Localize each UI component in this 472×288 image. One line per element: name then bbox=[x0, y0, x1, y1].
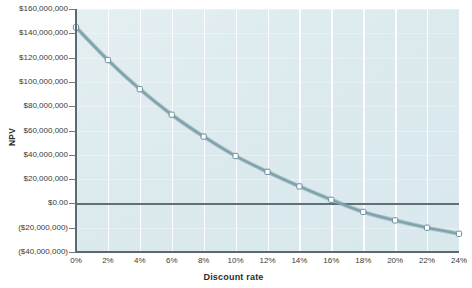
x-axis-tick-label: 12% bbox=[253, 256, 283, 265]
y-axis-tick-mark bbox=[69, 131, 76, 132]
y-axis-tick-mark bbox=[69, 155, 76, 156]
y-axis-tick-label: $140,000,000 bbox=[0, 28, 68, 38]
y-axis-tick-mark bbox=[69, 82, 76, 83]
y-axis-tick-label: $20,000,000 bbox=[0, 174, 68, 184]
data-point-marker bbox=[105, 57, 110, 62]
y-axis-tick-label: $160,000,000 bbox=[0, 4, 68, 14]
x-axis-tick-label: 22% bbox=[412, 256, 442, 265]
plot-area bbox=[76, 9, 459, 252]
x-axis-tick-label: 16% bbox=[316, 256, 346, 265]
x-axis-line bbox=[75, 251, 459, 253]
x-axis-tick-label: 8% bbox=[189, 256, 219, 265]
x-axis-tick-label: 2% bbox=[93, 256, 123, 265]
data-point-marker bbox=[329, 197, 334, 202]
y-axis-tick-label: $100,000,000 bbox=[0, 77, 68, 87]
data-point-marker bbox=[361, 209, 366, 214]
x-axis-tick-label: 18% bbox=[348, 256, 378, 265]
y-axis-tick-mark bbox=[69, 179, 76, 180]
data-point-marker bbox=[169, 112, 174, 117]
x-axis-tick-label: 20% bbox=[380, 256, 410, 265]
y-axis-tick-mark bbox=[69, 252, 76, 253]
y-axis-tick-label: $120,000,000 bbox=[0, 53, 68, 63]
data-point-marker bbox=[137, 87, 142, 92]
series-line bbox=[76, 27, 459, 234]
y-axis-tick-mark bbox=[69, 9, 76, 10]
y-axis-tick-mark bbox=[69, 58, 76, 59]
npv-series-line bbox=[76, 9, 459, 252]
y-axis-title: NPV bbox=[7, 117, 17, 157]
x-axis-tick-label: 4% bbox=[125, 256, 155, 265]
data-point-marker bbox=[233, 153, 238, 158]
y-axis-tick-mark bbox=[69, 33, 76, 34]
data-point-marker bbox=[265, 169, 270, 174]
data-point-marker bbox=[201, 134, 206, 139]
series-line-shadow bbox=[76, 27, 459, 234]
data-point-marker bbox=[297, 184, 302, 189]
y-axis-tick-mark bbox=[69, 106, 76, 107]
x-axis-tick-label: 6% bbox=[157, 256, 187, 265]
y-axis-tick-label: ($40,000,000) bbox=[0, 247, 68, 257]
x-axis-title: Discount rate bbox=[0, 272, 467, 282]
x-axis-tick-label: 10% bbox=[221, 256, 251, 265]
y-axis-tick-label: ($20,000,000) bbox=[0, 223, 68, 233]
data-point-marker bbox=[393, 218, 398, 223]
y-axis-tick-mark bbox=[69, 203, 76, 204]
y-axis-tick-label: $80,000,000 bbox=[0, 101, 68, 111]
vertical-gridline bbox=[459, 9, 460, 252]
x-axis-tick-label: 0% bbox=[61, 256, 91, 265]
x-axis-tick-label: 24% bbox=[444, 256, 472, 265]
y-axis-tick-mark bbox=[69, 228, 76, 229]
data-point-marker bbox=[424, 225, 429, 230]
data-point-marker bbox=[456, 231, 461, 236]
y-axis-tick-label: $0.00 bbox=[0, 198, 68, 208]
x-axis-tick-label: 14% bbox=[284, 256, 314, 265]
